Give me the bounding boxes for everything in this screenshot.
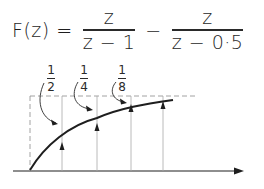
fraction-bar: [80, 78, 88, 79]
label-one-quarter: 1 4: [80, 64, 88, 93]
up-arrow-icon: [60, 142, 65, 150]
label-denominator: 8: [118, 81, 126, 93]
response-curve: [30, 100, 173, 170]
label-denominator: 2: [47, 81, 55, 93]
step-response-graph: [0, 0, 264, 189]
fraction-bar: [118, 78, 126, 79]
label-one-half: 1 2: [47, 64, 55, 93]
label-numerator: 1: [47, 64, 55, 76]
up-arrow-icon: [95, 123, 100, 131]
label-one-eighth: 1 8: [118, 64, 126, 93]
label-numerator: 1: [118, 64, 126, 76]
label-numerator: 1: [80, 64, 88, 76]
label-denominator: 4: [80, 81, 88, 93]
x-axis-arrow-icon: [234, 168, 244, 175]
fraction-bar: [47, 78, 55, 79]
